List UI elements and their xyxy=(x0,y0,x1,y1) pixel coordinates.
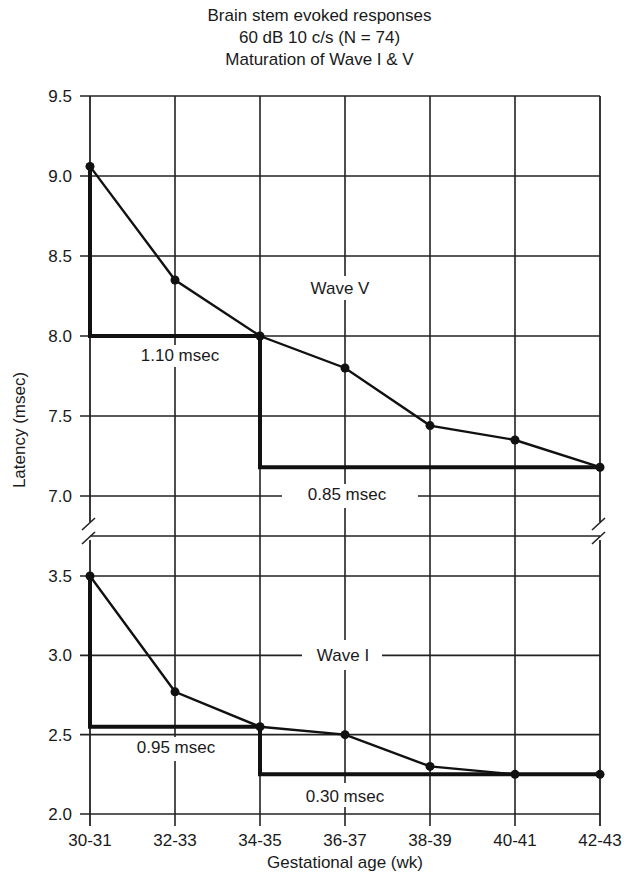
wave-i-data-point xyxy=(256,722,265,731)
y-tick-label: 3.5 xyxy=(48,567,72,586)
x-tick-label: 30-31 xyxy=(68,831,111,850)
axis-break-mark xyxy=(82,532,95,544)
wave-i-data-point xyxy=(341,730,350,739)
y-tick-label: 7.5 xyxy=(48,407,72,426)
wave-i-data-point xyxy=(511,770,520,779)
axis-break-mark xyxy=(592,518,605,530)
x-tick-label: 36-37 xyxy=(323,831,366,850)
axis-break-mark xyxy=(592,532,605,544)
wave-i-data-point xyxy=(171,687,180,696)
y-tick-label: 2.5 xyxy=(48,726,72,745)
wave-v-data-point xyxy=(256,332,265,341)
wave-i-late-diff-label: 0.30 msec xyxy=(306,787,385,806)
axis-break-mark xyxy=(82,518,95,530)
wave-i-data-point xyxy=(86,572,95,581)
wave-v-data-point xyxy=(511,436,520,445)
wave-v-label: Wave V xyxy=(311,279,371,298)
wave-v-late-diff-label: 0.85 msec xyxy=(308,485,387,504)
x-tick-label: 34-35 xyxy=(238,831,281,850)
y-tick-label: 9.0 xyxy=(48,167,72,186)
wave-i-label: Wave I xyxy=(317,646,369,665)
y-axis-title: Latency (msec) xyxy=(10,372,29,488)
wave-v-data-point xyxy=(341,364,350,373)
y-tick-label: 8.0 xyxy=(48,327,72,346)
y-tick-label: 2.0 xyxy=(48,805,72,824)
wave-i-data-point xyxy=(596,770,605,779)
wave-v-data-point xyxy=(426,421,435,430)
wave-v-data-point xyxy=(171,276,180,285)
y-tick-label: 8.5 xyxy=(48,247,72,266)
x-tick-label: 38-39 xyxy=(408,831,451,850)
wave-v-data-point xyxy=(86,162,95,171)
x-tick-label: 32-33 xyxy=(153,831,196,850)
y-tick-label: 9.5 xyxy=(48,87,72,106)
wave-i-early-diff-label: 0.95 msec xyxy=(137,738,216,757)
y-tick-label: 3.0 xyxy=(48,646,72,665)
x-tick-label: 42-43 xyxy=(578,831,621,850)
y-tick-label: 7.0 xyxy=(48,487,72,506)
grid-lines xyxy=(80,96,600,826)
wave-i-data-point xyxy=(426,762,435,771)
x-axis-title: Gestational age (wk) xyxy=(267,853,423,872)
chart-plot-area: 1.10 msec Wave V 0.85 msec Wave I 0.95 m… xyxy=(0,0,639,891)
wave-v-data-point xyxy=(596,463,605,472)
wave-v-early-diff-label: 1.10 msec xyxy=(141,346,220,365)
x-tick-label: 40-41 xyxy=(493,831,536,850)
axes xyxy=(82,96,605,826)
